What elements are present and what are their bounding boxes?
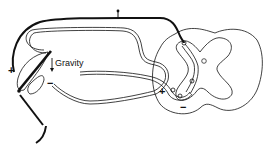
nerve-marker-dot (117, 10, 120, 13)
reflex-diagram: Gravity + − + − (0, 0, 267, 150)
afferent-branch-lower (80, 71, 190, 97)
joint (17, 89, 21, 93)
cord-interneuron-path-2 (185, 44, 198, 94)
lower-bone (20, 95, 43, 125)
limb-minus-sign: − (47, 77, 53, 89)
limb-plus-sign: + (8, 64, 14, 76)
foot (36, 126, 46, 143)
gravity-label: Gravity (55, 58, 84, 68)
central-canal (202, 59, 207, 64)
gray-matter-x (176, 38, 232, 101)
afferent-loop-inner (30, 30, 166, 101)
afferent-branch-lower-inner (80, 74, 192, 100)
gravity-arrow-head (50, 68, 54, 72)
spinal-cord-outline (153, 28, 263, 113)
synapse-1 (171, 88, 175, 92)
cord-minus-sign: − (180, 101, 186, 113)
efferent-nerve (13, 18, 184, 72)
cord-plus-sign: + (159, 85, 165, 97)
